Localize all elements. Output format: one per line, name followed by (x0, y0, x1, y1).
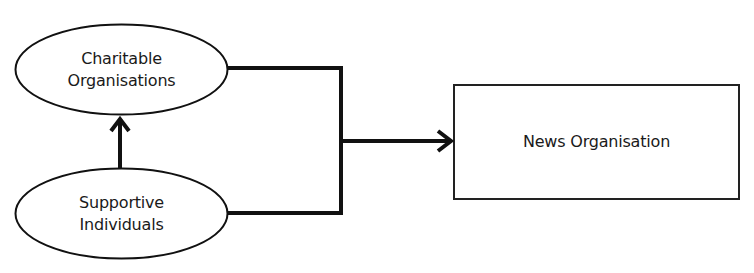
supportive-line2: Individuals (79, 214, 163, 236)
news-organisation-text: News Organisation (523, 131, 670, 153)
charitable-line2: Organisations (68, 70, 176, 92)
supportive-individuals-label: Supportive Individuals (15, 168, 228, 259)
charitable-line1: Charitable (81, 48, 162, 70)
news-organisation-label: News Organisation (454, 85, 739, 199)
charitable-organisations-label: Charitable Organisations (15, 24, 228, 115)
merge-connector (227, 66, 451, 215)
supportive-to-charitable-arrow (111, 119, 129, 168)
supportive-line1: Supportive (79, 192, 164, 214)
